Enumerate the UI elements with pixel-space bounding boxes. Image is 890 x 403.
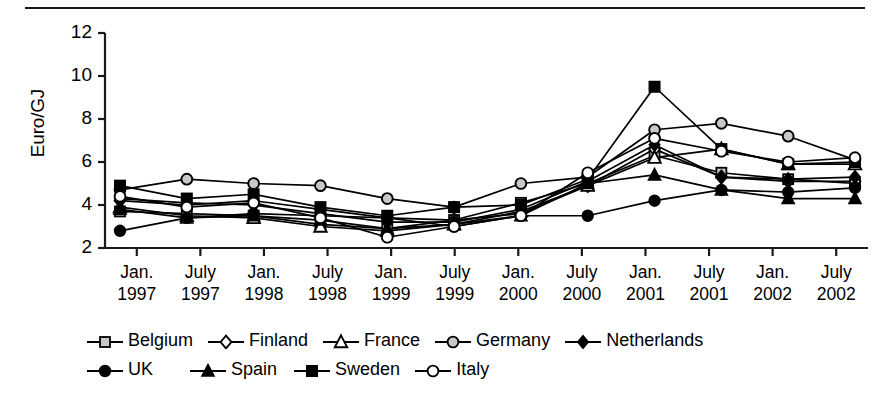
- x-tick-label: July1998: [296, 261, 360, 305]
- data-point-marker: [578, 335, 588, 347]
- data-point-marker: [649, 195, 660, 206]
- data-point-marker: [315, 202, 325, 212]
- x-tick-year: 1999: [359, 283, 423, 305]
- legend-item-label: Spain: [231, 359, 277, 380]
- legend-item-sweden[interactable]: Sweden: [293, 359, 402, 380]
- data-point-marker: [307, 365, 317, 375]
- data-point-marker: [115, 180, 125, 190]
- legend-item-spain[interactable]: Spain: [189, 359, 279, 380]
- x-tick-year: 1997: [168, 283, 232, 305]
- data-point-marker: [783, 157, 794, 168]
- x-tick-month: Jan.: [359, 261, 423, 283]
- series-markers-italy: [115, 133, 861, 243]
- x-tick-month: Jan.: [613, 261, 677, 283]
- data-point-marker: [181, 174, 192, 185]
- data-point-marker: [382, 211, 392, 221]
- data-point-marker: [115, 225, 126, 236]
- legend-item-label: Belgium: [128, 330, 193, 351]
- series-sweden: [120, 87, 855, 216]
- data-point-marker: [449, 221, 460, 232]
- data-point-marker: [850, 152, 861, 163]
- legend-marker-france: [322, 333, 360, 349]
- legend-marker-germany: [434, 333, 472, 349]
- x-tick-year: 1998: [232, 283, 296, 305]
- x-tick-month: July: [296, 261, 360, 283]
- series-markers-germany: [115, 118, 861, 213]
- legend-item-france[interactable]: France: [322, 330, 422, 351]
- legend-marker-uk: [86, 362, 124, 378]
- data-point-marker: [582, 210, 593, 221]
- chart-series-group: [114, 82, 861, 243]
- x-tick-year: 1999: [423, 283, 487, 305]
- series-line: [120, 149, 855, 220]
- data-point-marker: [315, 213, 326, 224]
- legend-item-germany[interactable]: Germany: [434, 330, 552, 351]
- x-tick-label: July1997: [168, 261, 232, 305]
- chart-legend: BelgiumFinlandFranceGermanyNetherlandsUK…: [86, 326, 876, 384]
- x-tick-label: July2001: [677, 261, 741, 305]
- data-point-marker: [221, 335, 232, 348]
- legend-item-label: France: [364, 330, 420, 351]
- data-point-marker: [448, 336, 459, 347]
- legend-marker-spain: [189, 362, 227, 378]
- x-tick-label: Jan.2001: [613, 261, 677, 305]
- legend-item-finland[interactable]: Finland: [207, 330, 310, 351]
- data-point-marker: [649, 169, 661, 180]
- data-point-marker: [783, 131, 794, 142]
- chart-figure: Euro/GJ 12108642 Jan.1997July1997Jan.199…: [0, 0, 890, 403]
- series-germany: [120, 123, 855, 207]
- data-point-marker: [315, 180, 326, 191]
- legend-item-label: Germany: [476, 330, 550, 351]
- data-point-marker: [516, 210, 527, 221]
- data-point-marker: [115, 191, 126, 202]
- x-tick-month: July: [168, 261, 232, 283]
- legend-item-belgium[interactable]: Belgium: [86, 330, 195, 351]
- legend-row: BelgiumFinlandFranceGermanyNetherlands: [86, 326, 876, 355]
- x-tick-month: July: [423, 261, 487, 283]
- data-point-marker: [100, 337, 110, 347]
- legend-marker-finland: [207, 333, 245, 349]
- legend-row: UKSpainSwedenItaly: [86, 355, 876, 384]
- data-point-marker: [516, 178, 527, 189]
- data-point-marker: [428, 365, 439, 376]
- legend-item-label: UK: [128, 359, 153, 380]
- y-tick-label: 2: [58, 236, 92, 258]
- x-tick-label: Jan.1998: [232, 261, 296, 305]
- data-point-marker: [382, 193, 393, 204]
- legend-marker-sweden: [293, 362, 331, 378]
- x-tick-month: Jan.: [232, 261, 296, 283]
- legend-item-uk[interactable]: UK: [86, 359, 155, 380]
- y-tick-label: 12: [58, 21, 92, 43]
- x-tick-year: 2002: [741, 283, 805, 305]
- x-tick-year: 2000: [550, 283, 614, 305]
- x-tick-year: 1998: [296, 283, 360, 305]
- data-point-marker: [248, 178, 259, 189]
- legend-item-netherlands[interactable]: Netherlands: [564, 330, 705, 351]
- data-point-marker: [181, 202, 192, 213]
- legend-item-label: Sweden: [335, 359, 400, 380]
- data-point-marker: [449, 202, 459, 212]
- series-line: [120, 87, 855, 216]
- series-line: [120, 138, 855, 237]
- x-tick-year: 2000: [486, 283, 550, 305]
- x-tick-label: July2002: [804, 261, 868, 305]
- series-finland: [120, 149, 855, 220]
- x-tick-label: Jan.2002: [741, 261, 805, 305]
- data-point-marker: [716, 118, 727, 129]
- x-tick-label: July1999: [423, 261, 487, 305]
- x-tick-label: July2000: [550, 261, 614, 305]
- data-point-marker: [516, 200, 526, 210]
- data-point-marker: [382, 232, 393, 243]
- legend-item-label: Finland: [249, 330, 308, 351]
- x-tick-month: Jan.: [105, 261, 169, 283]
- x-tick-month: Jan.: [486, 261, 550, 283]
- data-point-marker: [649, 82, 659, 92]
- legend-item-label: Netherlands: [606, 330, 703, 351]
- x-tick-year: 2001: [613, 283, 677, 305]
- x-tick-label: Jan.2000: [486, 261, 550, 305]
- legend-marker-netherlands: [564, 333, 602, 349]
- x-tick-month: July: [550, 261, 614, 283]
- y-tick-label: 6: [58, 150, 92, 172]
- x-tick-year: 2002: [804, 283, 868, 305]
- legend-item-italy[interactable]: Italy: [414, 359, 491, 380]
